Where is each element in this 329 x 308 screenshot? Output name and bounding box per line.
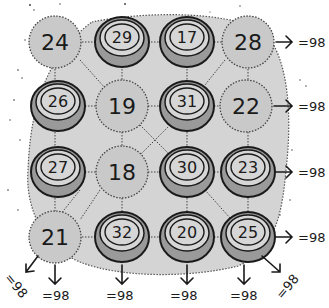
cell-31: 31 (160, 81, 214, 131)
cell-number: 30 (177, 158, 197, 177)
row-sum-4: =98 (298, 230, 325, 245)
column-sum-4: =98 (230, 288, 257, 303)
main-diagonal-sum: =98 (273, 271, 302, 302)
column-sum-2: =98 (106, 288, 133, 303)
cell-number: 28 (234, 30, 262, 55)
cell-18: 18 (96, 146, 148, 198)
cell-26: 26 (31, 81, 85, 131)
cell-27: 27 (31, 147, 85, 197)
cell-number: 32 (112, 223, 132, 242)
cell-number: 25 (238, 223, 258, 242)
cell-22: 22 (220, 80, 272, 132)
column-sum-3: =98 (170, 288, 197, 303)
cell-number: 19 (108, 94, 136, 119)
cell-number: 24 (41, 30, 69, 55)
magic-square-diagram: 24291728261931222718302321322025 =98 =98… (0, 0, 329, 308)
cell-19: 19 (96, 80, 148, 132)
cell-number: 21 (41, 225, 69, 250)
cell-23: 23 (221, 147, 275, 197)
cell-29: 29 (95, 17, 149, 67)
cell-25: 25 (221, 212, 275, 262)
cell-number: 18 (108, 160, 136, 185)
cell-20: 20 (160, 212, 214, 262)
cell-number: 26 (48, 92, 68, 111)
cell-number: 17 (177, 28, 197, 47)
cell-number: 27 (48, 158, 68, 177)
cell-28: 28 (222, 16, 274, 68)
column-sum-1: =98 (42, 288, 69, 303)
cell-number: 31 (177, 92, 197, 111)
cell-number: 29 (112, 28, 132, 47)
cell-number: 23 (238, 158, 258, 177)
cell-32: 32 (95, 212, 149, 262)
cell-21: 21 (29, 211, 81, 263)
anti-diagonal-sum: =98 (2, 270, 31, 301)
cell-number: 20 (177, 223, 197, 242)
cell-24: 24 (29, 16, 81, 68)
row-sum-2: =98 (298, 99, 325, 114)
cell-17: 17 (160, 17, 214, 67)
row-sum-3: =98 (298, 165, 325, 180)
cell-number: 22 (232, 94, 260, 119)
row-sum-1: =98 (298, 35, 325, 50)
cell-30: 30 (160, 147, 214, 197)
